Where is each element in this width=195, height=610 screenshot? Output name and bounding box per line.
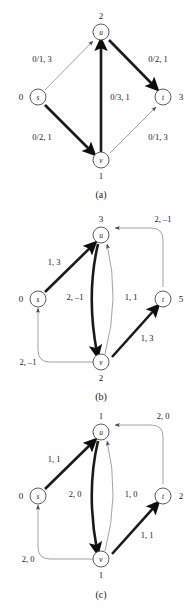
- node-letter-b-s: s: [37, 295, 40, 304]
- edge-label-c-v-u: 1, 0: [125, 489, 138, 499]
- edge-label-b-t-u: 2, –1: [155, 214, 172, 224]
- panel-c: 1, 1 2, 0 2, 0 1, 0 1, 1 2, 0: [19, 411, 184, 601]
- edge-label-a-s-u: 0/1, 3: [32, 54, 51, 64]
- edge-b-v-s: 2, –1: [20, 308, 94, 367]
- node-a-t: t 3: [155, 89, 184, 105]
- edge-b-v-u: 1, 1: [105, 244, 137, 354]
- edge-b-u-v: 2, –1: [67, 244, 99, 353]
- edge-label-a-v-u: 0/3, 1: [110, 92, 129, 102]
- node-value-c-v: 1: [99, 570, 104, 580]
- node-b-t: t 5: [155, 291, 184, 307]
- edge-label-b-v-s: 2, –1: [20, 357, 37, 367]
- edge-a-v-t: 0/1, 3: [110, 107, 168, 153]
- edge-c-v-t: 1, 1: [112, 505, 156, 554]
- node-value-c-s: 0: [19, 491, 24, 501]
- caption-b: (b): [95, 391, 107, 403]
- node-c-t: t 2: [155, 488, 183, 504]
- edge-b-v-t: 1, 3: [112, 308, 156, 357]
- node-c-s: s 0: [19, 488, 46, 504]
- node-value-c-u: 1: [99, 411, 104, 421]
- edge-label-c-t-u: 2, 0: [157, 411, 170, 421]
- edge-label-c-v-t: 1, 1: [141, 530, 154, 540]
- caption-a: (a): [95, 189, 106, 201]
- node-letter-a-u: u: [99, 28, 103, 37]
- node-letter-c-u: u: [99, 428, 103, 437]
- edge-label-b-v-t: 1, 3: [141, 333, 154, 343]
- edge-a-v-u: 0/3, 1: [101, 43, 130, 152]
- edge-label-a-v-t: 0/1, 3: [148, 132, 167, 142]
- edge-a-u-t: 0/2, 1: [109, 40, 168, 87]
- edge-label-a-u-t: 0/2, 1: [148, 54, 167, 64]
- edge-a-s-u: 0/1, 3: [32, 41, 93, 90]
- edge-c-v-s: 2, 0: [22, 505, 93, 564]
- edge-label-b-s-u: 1, 3: [48, 257, 61, 267]
- panel-b: 1, 3 2, –1 2, –1 1, 1 1, 3 2, –1: [19, 214, 184, 403]
- node-c-v: v 1: [93, 551, 109, 580]
- node-letter-b-u: u: [99, 231, 103, 240]
- node-value-a-s: 0: [19, 92, 24, 102]
- panel-a: 0/1, 3 0/2, 1 0/2, 1 0/1, 3 0/3, 1 u 2: [19, 11, 184, 201]
- node-value-a-v: 1: [99, 171, 104, 181]
- edge-label-c-v-s: 2, 0: [22, 554, 35, 564]
- edge-c-u-v: 2, 0: [69, 441, 98, 550]
- node-a-v: v 1: [93, 152, 109, 181]
- node-b-u: u 3: [93, 214, 109, 243]
- node-b-s: s 0: [19, 291, 46, 307]
- edge-label-a-s-v: 0/2, 1: [32, 132, 51, 142]
- edge-a-s-v: 0/2, 1: [32, 105, 92, 152]
- node-a-s: s 0: [19, 89, 46, 105]
- edge-c-t-u: 2, 0: [115, 411, 169, 484]
- caption-c: (c): [95, 589, 106, 601]
- node-value-a-t: 3: [179, 92, 184, 102]
- node-b-v: v 2: [93, 354, 109, 383]
- node-letter-c-s: s: [37, 492, 40, 501]
- node-value-c-t: 2: [179, 491, 184, 501]
- edge-label-c-s-u: 1, 1: [48, 454, 61, 464]
- edge-b-s-u: 1, 3: [45, 245, 93, 292]
- edge-label-c-u-v: 2, 0: [69, 489, 82, 499]
- node-letter-a-s: s: [37, 93, 40, 102]
- edge-b-t-u: 2, –1: [115, 214, 172, 287]
- edge-label-b-v-u: 1, 1: [125, 292, 138, 302]
- figure-svg: 0/1, 3 0/2, 1 0/2, 1 0/1, 3 0/3, 1 u 2: [0, 0, 195, 610]
- node-value-a-u: 2: [99, 11, 104, 21]
- node-value-b-t: 5: [179, 294, 184, 304]
- figure-container: 0/1, 3 0/2, 1 0/2, 1 0/1, 3 0/3, 1 u 2: [0, 0, 195, 610]
- edge-c-v-u: 1, 0: [105, 441, 137, 551]
- node-value-b-s: 0: [19, 294, 24, 304]
- node-value-b-u: 3: [99, 214, 104, 224]
- node-a-u: u 2: [93, 11, 109, 40]
- edge-c-s-u: 1, 1: [45, 442, 93, 489]
- node-c-u: u 1: [93, 411, 109, 440]
- node-value-b-v: 2: [99, 373, 104, 383]
- edge-label-b-u-v: 2, –1: [67, 292, 84, 302]
